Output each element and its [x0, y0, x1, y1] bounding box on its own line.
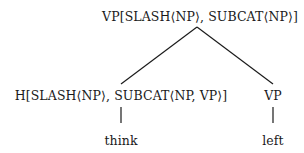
head-node-label: H[SLASH⟨NP⟩, SUBCAT⟨NP, VP⟩] [15, 89, 228, 103]
edge-root-to-head [121, 27, 197, 84]
root-node-label: VP[SLASH⟨NP⟩, SUBCAT⟨NP⟩] [102, 10, 298, 24]
leaf-left: left [262, 134, 283, 148]
edge-root-to-vp [197, 27, 273, 84]
leaf-think: think [104, 134, 137, 148]
vp-node-label: VP [264, 89, 282, 103]
